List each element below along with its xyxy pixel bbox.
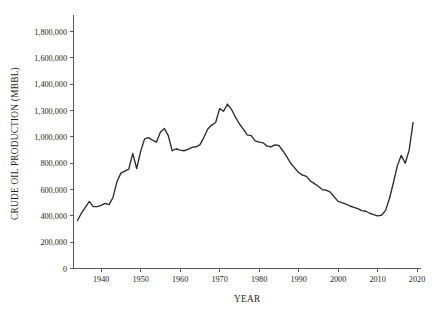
x-tick-label: 2010 [369, 275, 385, 284]
x-tick-label: 1980 [251, 275, 267, 284]
crude-oil-production-line-chart: 0200,000400,000600,000800,0001,000,0001,… [0, 0, 435, 315]
y-tick-label: 1,400,000 [34, 80, 67, 89]
y-tick-label: 1,600,000 [34, 54, 67, 63]
x-tick-label: 1940 [93, 275, 109, 284]
y-tick-label: 0 [63, 265, 67, 274]
x-tick-label: 1950 [132, 275, 148, 284]
y-tick-label: 1,800,000 [34, 28, 67, 37]
x-tick-label: 1960 [172, 275, 188, 284]
y-tick-label: 400,000 [40, 212, 67, 221]
chart-figure: 0200,000400,000600,000800,0001,000,0001,… [0, 0, 435, 315]
y-axis-title: CRUDE OIL PRODUCTION (MBBL) [10, 67, 21, 220]
x-tick-label: 2000 [330, 275, 346, 284]
y-tick-label: 1,000,000 [34, 133, 67, 142]
x-tick-label: 1990 [290, 275, 306, 284]
y-tick-label: 1,300,000 [34, 107, 67, 116]
y-tick-label: 200,000 [40, 238, 67, 247]
y-tick-label: 600,000 [40, 186, 67, 195]
x-tick-label: 2020 [409, 275, 425, 284]
y-tick-label: 800,000 [40, 159, 67, 168]
x-axis-title: YEAR [234, 294, 261, 304]
x-tick-label: 1970 [211, 275, 227, 284]
